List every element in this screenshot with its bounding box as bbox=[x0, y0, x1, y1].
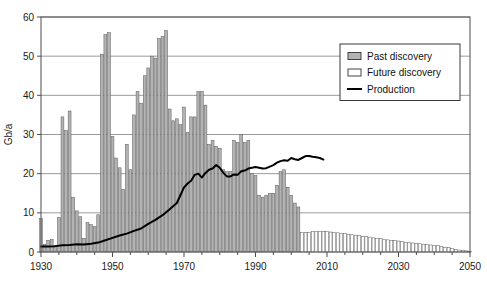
bar bbox=[90, 225, 93, 252]
y-tick-label-0: 0 bbox=[28, 247, 34, 258]
bar bbox=[297, 207, 300, 252]
bar bbox=[372, 238, 375, 252]
bar bbox=[168, 109, 171, 252]
bar bbox=[293, 203, 296, 252]
bar bbox=[336, 233, 339, 252]
bar bbox=[447, 248, 450, 252]
bar bbox=[433, 245, 436, 252]
bar bbox=[444, 247, 447, 252]
bar bbox=[208, 144, 211, 252]
bar bbox=[268, 193, 271, 252]
bar bbox=[118, 168, 121, 252]
bar bbox=[390, 240, 393, 252]
bar bbox=[354, 235, 357, 252]
x-tick-label-2050: 2050 bbox=[459, 261, 482, 272]
bar bbox=[261, 197, 264, 252]
bar bbox=[161, 37, 164, 252]
bar bbox=[175, 119, 178, 252]
bar bbox=[361, 236, 364, 252]
bar bbox=[318, 231, 321, 252]
bar bbox=[222, 170, 225, 252]
bar bbox=[240, 135, 243, 253]
x-tick-label-1990: 1990 bbox=[244, 261, 267, 272]
bar bbox=[211, 140, 214, 252]
bar bbox=[186, 133, 189, 252]
y-tick-label-40: 40 bbox=[23, 90, 35, 101]
bar bbox=[340, 233, 343, 252]
bar bbox=[243, 142, 246, 252]
bar bbox=[422, 244, 425, 252]
bar bbox=[365, 237, 368, 252]
bar bbox=[308, 232, 311, 252]
bar bbox=[204, 105, 207, 252]
bar bbox=[408, 243, 411, 252]
x-tick-label-1970: 1970 bbox=[173, 261, 196, 272]
legend-swatch bbox=[348, 69, 361, 76]
bar bbox=[97, 215, 100, 252]
bar bbox=[290, 195, 293, 252]
bar bbox=[165, 31, 168, 252]
bar bbox=[286, 187, 289, 252]
bar bbox=[172, 121, 175, 252]
bar bbox=[125, 144, 128, 252]
bar bbox=[451, 248, 454, 252]
bar bbox=[215, 146, 218, 252]
bar bbox=[79, 217, 82, 252]
legend-label: Production bbox=[367, 84, 415, 95]
bar bbox=[326, 232, 329, 252]
bar bbox=[343, 234, 346, 252]
legend-label: Past discovery bbox=[367, 51, 432, 62]
bar bbox=[315, 231, 318, 252]
bar bbox=[419, 244, 422, 252]
bar bbox=[254, 176, 257, 252]
y-axis-title: Gb/a bbox=[3, 123, 14, 145]
legend-swatch bbox=[348, 53, 361, 60]
bar bbox=[411, 243, 414, 252]
bar bbox=[233, 140, 236, 252]
bar bbox=[258, 195, 261, 252]
bar bbox=[247, 140, 250, 252]
bar bbox=[75, 211, 78, 252]
bar bbox=[129, 170, 132, 252]
bar bbox=[351, 235, 354, 252]
bar bbox=[225, 172, 228, 252]
oil-discovery-production-chart: 0102030405060 19301950197019902010203020… bbox=[0, 0, 487, 283]
bar bbox=[283, 170, 286, 252]
bar bbox=[250, 174, 253, 252]
bar bbox=[358, 236, 361, 252]
bar bbox=[197, 91, 200, 252]
bar bbox=[236, 142, 239, 252]
bar bbox=[65, 131, 68, 252]
bar bbox=[322, 231, 325, 252]
bar bbox=[104, 35, 107, 252]
x-tick-label-2010: 2010 bbox=[316, 261, 339, 272]
bar bbox=[368, 237, 371, 252]
bar bbox=[436, 246, 439, 252]
bar bbox=[100, 54, 103, 252]
y-tick-label-10: 10 bbox=[23, 207, 35, 218]
bar bbox=[397, 241, 400, 252]
bar bbox=[229, 172, 232, 252]
bar bbox=[93, 227, 96, 252]
bar bbox=[383, 239, 386, 252]
bar bbox=[393, 241, 396, 252]
bar bbox=[272, 193, 275, 252]
bar bbox=[265, 195, 268, 252]
y-tick-label-50: 50 bbox=[23, 51, 35, 62]
bar bbox=[43, 244, 46, 252]
bar bbox=[190, 117, 193, 252]
y-tick-label-30: 30 bbox=[23, 129, 35, 140]
bar bbox=[329, 232, 332, 252]
bar bbox=[86, 223, 89, 252]
bar bbox=[311, 232, 314, 252]
bar bbox=[111, 136, 114, 252]
bar bbox=[183, 107, 186, 252]
bar bbox=[179, 125, 182, 252]
x-tick-label-1950: 1950 bbox=[101, 261, 124, 272]
bar bbox=[347, 234, 350, 252]
bar bbox=[158, 39, 161, 252]
bar bbox=[429, 245, 432, 252]
bar bbox=[379, 239, 382, 252]
bar bbox=[136, 91, 139, 252]
chart-legend: Past discoveryFuture discoveryProduction bbox=[340, 44, 460, 101]
